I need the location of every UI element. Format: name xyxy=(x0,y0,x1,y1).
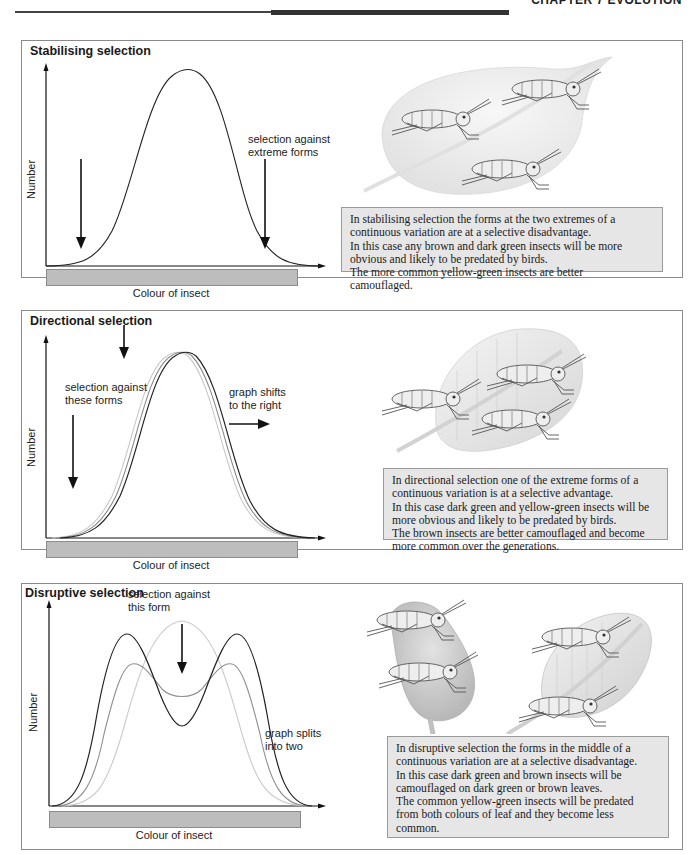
down-arrow-right-icon xyxy=(260,159,270,249)
caption-line: common. xyxy=(396,822,660,835)
annotation-graph-shifts: graph shifts to the right xyxy=(229,386,286,412)
caption-line: In stabilising selection the forms at th… xyxy=(350,213,654,226)
annotation-selection-against: selection against this form xyxy=(128,588,210,614)
caption-line: In directional selection one of the extr… xyxy=(392,474,659,487)
x-axis-label: Colour of insect xyxy=(46,559,296,571)
panel-disruptive-selection: Disruptive selection Number selection ag… xyxy=(21,583,683,850)
caption-line: The common yellow-green insects will be … xyxy=(396,795,660,808)
leaf-with-insects-illustration xyxy=(342,311,672,461)
annotation-line: graph shifts xyxy=(229,386,286,399)
annotation-line: this form xyxy=(128,601,210,614)
caption-line: from both colours of leaf and they becom… xyxy=(396,808,660,821)
x-axis-label: Colour of insect xyxy=(49,829,299,841)
caption-line: obvious and likely to be predated by bir… xyxy=(350,253,654,266)
caption-box: In stabilising selection the forms at th… xyxy=(341,207,663,272)
caption-box: In disruptive selection the forms in the… xyxy=(387,736,669,838)
caption-line: more obvious and likely to be predated b… xyxy=(392,514,659,527)
down-arrow-left-icon xyxy=(68,415,78,489)
colour-scale-bar xyxy=(49,811,301,828)
caption-line: camouflaged. xyxy=(350,279,654,292)
y-axis-label: Number xyxy=(27,693,39,732)
annotation-line: selection against xyxy=(248,133,330,146)
caption-line: In this case dark green and brown insect… xyxy=(396,769,660,782)
right-arrow-icon xyxy=(229,419,270,429)
caption-line: continuous variation are at a selective … xyxy=(350,226,654,239)
annotation-line: these forms xyxy=(65,394,147,407)
annotation-graph-splits: graph splits into two xyxy=(265,727,321,753)
panel-stabilising-selection: Stabilising selection Number selection a… xyxy=(21,40,683,278)
annotation-line: selection against xyxy=(65,381,147,394)
panel-directional-selection: Directional selection Number selection a… xyxy=(21,310,683,550)
caption-line: The brown insects are better camouflaged… xyxy=(392,527,659,540)
header-rule-thick xyxy=(271,10,509,15)
caption-line: The more common yellow-green insects are… xyxy=(350,266,654,279)
caption-line: continuous variation are at a selective … xyxy=(396,755,660,768)
annotation-line: graph splits xyxy=(265,727,321,740)
caption-line: continuous variation is at a selective a… xyxy=(392,487,659,500)
colour-scale-bar xyxy=(46,269,298,286)
down-arrow-top-icon xyxy=(119,325,129,359)
colour-scale-bar xyxy=(46,541,298,558)
caption-box: In directional selection one of the extr… xyxy=(383,468,668,540)
annotation-line: extreme forms xyxy=(248,146,330,159)
annotation-selection-against: selection against extreme forms xyxy=(248,133,330,159)
caption-line: In this case dark green and yellow-green… xyxy=(392,501,659,514)
stabilising-graph xyxy=(22,41,352,277)
leaf-with-insects-illustration xyxy=(342,41,672,206)
caption-line: In disruptive selection the forms in the… xyxy=(396,742,660,755)
x-axis-label: Colour of insect xyxy=(46,287,296,299)
down-arrow-center-icon xyxy=(177,624,187,674)
header-rule xyxy=(15,11,271,13)
leaves-with-insects-illustration xyxy=(342,584,672,734)
chapter-header: CHAPTER 7 EVOLUTION xyxy=(531,0,682,7)
caption-line: In this case any brown and dark green in… xyxy=(350,240,654,253)
original-distribution-curve xyxy=(62,621,307,806)
annotation-line: into two xyxy=(265,740,321,753)
down-arrow-left-icon xyxy=(76,159,86,249)
y-axis-label: Number xyxy=(25,428,37,467)
annotation-selection-against: selection against these forms xyxy=(65,381,147,407)
distribution-curve xyxy=(46,70,320,266)
caption-line: more common over the generations. xyxy=(392,540,659,553)
annotation-line: selection against xyxy=(128,588,210,601)
leaf-shape xyxy=(436,329,583,452)
annotation-line: to the right xyxy=(229,399,286,412)
disruptive-graph xyxy=(22,584,352,849)
directional-graph xyxy=(22,311,352,549)
y-axis-label: Number xyxy=(25,160,37,199)
caption-line: camouflaged on dark green or brown leave… xyxy=(396,782,660,795)
